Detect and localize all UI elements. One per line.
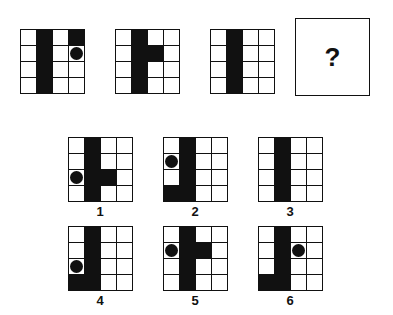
grid-cell [259, 275, 274, 290]
grid-cell [291, 275, 306, 290]
grid-cell [164, 275, 179, 290]
grid-cell [101, 186, 116, 201]
grid-cell [307, 186, 322, 201]
grid-cell [180, 138, 195, 153]
grid-cell [37, 78, 52, 93]
grid-cell [211, 46, 226, 61]
grid-cell [85, 259, 100, 274]
grid-cell [291, 227, 306, 242]
grid-cell [21, 78, 36, 93]
grid-cell [53, 46, 68, 61]
grid-cell [243, 62, 258, 77]
grid-cell [180, 243, 195, 258]
grid-cell [196, 243, 211, 258]
circle-icon [70, 260, 83, 273]
grid-cell [148, 46, 163, 61]
grid-cell [148, 30, 163, 45]
grid-cell [259, 46, 274, 61]
grid-cell [85, 243, 100, 258]
option-label[interactable]: 4 [68, 293, 132, 308]
option-grid-5[interactable] [163, 226, 228, 291]
grid-cell [307, 227, 322, 242]
grid-cell [132, 46, 147, 61]
grid-cell [69, 170, 84, 185]
grid-cell [69, 138, 84, 153]
grid-cell [116, 62, 131, 77]
option-grid-2[interactable] [163, 137, 228, 202]
option-grid-4[interactable] [68, 226, 133, 291]
circle-icon [70, 171, 83, 184]
grid-cell [307, 243, 322, 258]
option-grid-6[interactable] [258, 226, 323, 291]
grid-cell [69, 154, 84, 169]
grid-cell [21, 30, 36, 45]
option-label[interactable]: 6 [258, 293, 322, 308]
grid-cell [69, 46, 84, 61]
grid-cell [69, 186, 84, 201]
grid-cell [180, 154, 195, 169]
grid-cell [164, 30, 179, 45]
grid-cell [101, 138, 116, 153]
grid-cell [259, 170, 274, 185]
grid-cell [164, 186, 179, 201]
option-label[interactable]: 2 [163, 204, 227, 219]
grid-cell [211, 62, 226, 77]
grid-cell [211, 30, 226, 45]
option-label[interactable]: 1 [68, 204, 132, 219]
grid-cell [117, 275, 132, 290]
grid-cell [164, 259, 179, 274]
grid-cell [212, 170, 227, 185]
option-grid-3[interactable] [258, 137, 323, 202]
grid-cell [164, 154, 179, 169]
grid-cell [69, 275, 84, 290]
grid-cell [180, 275, 195, 290]
grid-cell [69, 62, 84, 77]
grid-cell [132, 78, 147, 93]
grid-cell [69, 30, 84, 45]
grid-cell [307, 170, 322, 185]
grid-cell [69, 259, 84, 274]
grid-cell [196, 186, 211, 201]
grid-cell [275, 138, 290, 153]
grid-cell [243, 46, 258, 61]
grid-cell [259, 62, 274, 77]
grid-cell [85, 186, 100, 201]
grid-cell [196, 275, 211, 290]
grid-cell [291, 259, 306, 274]
grid-cell [307, 154, 322, 169]
grid-cell [227, 78, 242, 93]
option-label[interactable]: 3 [258, 204, 322, 219]
option-grid-1[interactable] [68, 137, 133, 202]
grid-cell [180, 259, 195, 274]
grid-cell [164, 227, 179, 242]
grid-cell [180, 227, 195, 242]
grid-cell [307, 259, 322, 274]
grid-cell [259, 154, 274, 169]
grid-cell [101, 227, 116, 242]
grid-cell [164, 62, 179, 77]
grid-cell [164, 138, 179, 153]
grid-cell [117, 138, 132, 153]
grid-cell [53, 30, 68, 45]
grid-cell [164, 243, 179, 258]
grid-cell [196, 227, 211, 242]
option-label[interactable]: 5 [163, 293, 227, 308]
grid-cell [291, 186, 306, 201]
grid-cell [37, 46, 52, 61]
grid-cell [211, 78, 226, 93]
grid-cell [275, 275, 290, 290]
grid-cell [69, 78, 84, 93]
grid-cell [196, 138, 211, 153]
grid-cell [212, 186, 227, 201]
grid-cell [116, 30, 131, 45]
sequence-grid-2 [115, 29, 180, 94]
sequence-grid-1 [20, 29, 85, 94]
grid-cell [180, 186, 195, 201]
grid-cell [291, 154, 306, 169]
grid-cell [259, 259, 274, 274]
grid-cell [101, 170, 116, 185]
grid-cell [259, 227, 274, 242]
grid-cell [53, 78, 68, 93]
grid-cell [212, 154, 227, 169]
grid-cell [212, 259, 227, 274]
